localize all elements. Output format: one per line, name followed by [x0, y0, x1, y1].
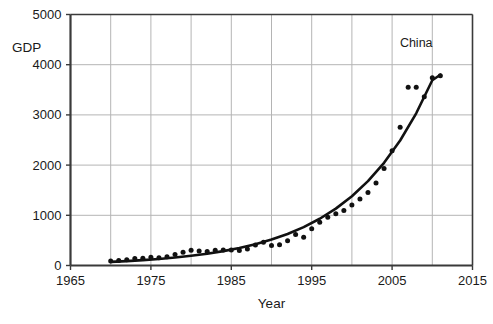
data-point — [430, 75, 435, 80]
x-axis-tick-label: 1975 — [136, 273, 165, 288]
data-point — [301, 235, 306, 240]
data-point — [317, 220, 322, 225]
data-point — [374, 181, 379, 186]
y-axis-tick-label: 3000 — [33, 107, 62, 122]
x-axis-tick-label: 2005 — [378, 273, 407, 288]
data-point — [438, 73, 443, 78]
data-point — [132, 256, 137, 261]
data-point — [156, 255, 161, 260]
data-point — [309, 226, 314, 231]
data-point — [148, 255, 153, 260]
data-point — [173, 252, 178, 257]
series-annotation-label: China — [400, 36, 433, 50]
data-point — [365, 190, 370, 195]
data-point — [108, 258, 113, 263]
y-axis-tick-label: 1000 — [33, 208, 62, 223]
gdp-vs-year-chart: 0100020003000400050001965197519851995200… — [0, 0, 493, 324]
data-point — [189, 248, 194, 253]
data-point — [221, 247, 226, 252]
data-point — [261, 240, 266, 245]
x-axis-tick-label: 1995 — [297, 273, 326, 288]
data-point — [116, 258, 121, 263]
data-point — [341, 208, 346, 213]
data-point — [140, 256, 145, 261]
y-axis-tick-label: 0 — [54, 258, 61, 273]
data-point — [333, 211, 338, 216]
data-point — [357, 197, 362, 202]
data-point — [205, 249, 210, 254]
data-point — [164, 254, 169, 259]
data-point — [237, 248, 242, 253]
data-point — [349, 203, 354, 208]
x-axis-tick-labels: 196519751985199520052015 — [56, 273, 487, 288]
x-axis-title: Year — [258, 296, 286, 311]
x-axis-tick-label: 1985 — [217, 273, 246, 288]
data-point — [382, 166, 387, 171]
data-point — [253, 242, 258, 247]
data-point — [124, 257, 129, 262]
data-point — [285, 238, 290, 243]
data-point — [277, 242, 282, 247]
data-point — [197, 248, 202, 253]
data-point — [406, 85, 411, 90]
data-point — [293, 232, 298, 237]
data-point — [325, 215, 330, 220]
data-point — [245, 247, 250, 252]
data-point — [229, 247, 234, 252]
data-point — [390, 148, 395, 153]
y-axis-tick-label: 4000 — [33, 57, 62, 72]
x-axis-tick-label: 1965 — [56, 273, 85, 288]
x-axis-tick-label: 2015 — [458, 273, 487, 288]
y-axis-tick-label: 2000 — [33, 158, 62, 173]
data-point — [269, 243, 274, 248]
chart-container: 0100020003000400050001965197519851995200… — [0, 0, 493, 324]
data-point — [213, 248, 218, 253]
data-point — [181, 250, 186, 255]
y-axis-tick-label: 5000 — [33, 7, 62, 22]
data-point — [414, 85, 419, 90]
data-point — [422, 94, 427, 99]
y-axis-title: GDP — [12, 40, 41, 55]
data-point — [398, 125, 403, 130]
